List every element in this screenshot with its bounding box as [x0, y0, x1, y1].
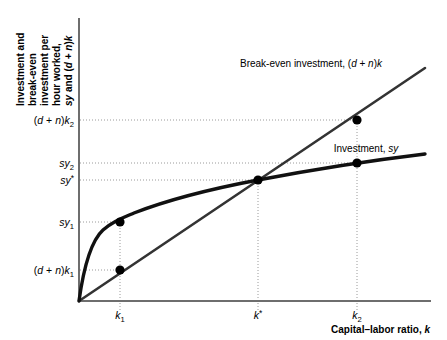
point-k1-dn-k1 — [115, 265, 124, 274]
y-tick-label-sy-star: sy* — [60, 173, 75, 186]
y-tick-label-dn-k1: (d + n)k1 — [34, 264, 74, 279]
solow-model-figure: (d + n)k2 sy2 sy* sy1 (d + n)k1 k1 k* k2… — [0, 0, 447, 340]
x-tick-label-k1: k1 — [115, 309, 124, 324]
x-tick-label-k2: k2 — [352, 309, 361, 324]
y-tick-label-sy2: sy2 — [59, 157, 74, 172]
y-axis-title: Investment and break-even investment per… — [15, 33, 74, 106]
x-tick-label-k-star: k* — [254, 308, 263, 321]
y-axis-title-line-2: break-even — [27, 53, 38, 106]
y-tick-label-sy1: sy1 — [59, 216, 74, 231]
chart-canvas: (d + n)k2 sy2 sy* sy1 (d + n)k1 k1 k* k2… — [0, 0, 447, 340]
y-tick-labels: (d + n)k2 sy2 sy* sy1 (d + n)k1 — [34, 114, 75, 279]
y-axis-title-line-1: Investment and — [15, 33, 26, 106]
point-k2-dn-k2 — [352, 115, 361, 124]
y-axis-title-line-4: hour worked, — [51, 43, 62, 106]
point-k1-sy1 — [115, 217, 124, 226]
y-tick-label-dn-k2: (d + n)k2 — [34, 114, 74, 129]
y-axis-title-line-5: sy and (d + n)k — [63, 35, 74, 106]
x-axis-title: Capital–labor ratio, k — [331, 324, 430, 335]
point-k2-sy2 — [352, 158, 361, 167]
investment-series-label: Investment, sy — [334, 143, 399, 154]
investment-curve — [79, 154, 425, 301]
x-tick-labels: k1 k* k2 — [115, 308, 361, 324]
break-even-series-label: Break-even investment, (d + n)k — [240, 58, 383, 69]
point-kstar-systar — [253, 175, 262, 184]
y-axis-title-line-3: investment per — [39, 35, 50, 106]
break-even-investment-line — [79, 68, 425, 301]
leader-lines — [80, 120, 357, 310]
